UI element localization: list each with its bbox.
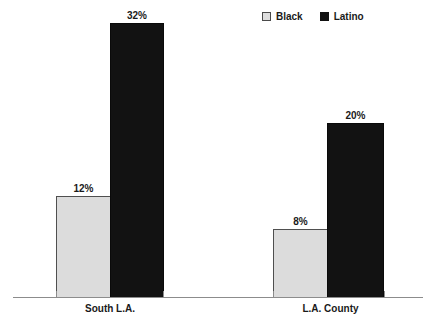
bar-chart: Black Latino 12% 32% 8% 20% South L.A. L… bbox=[0, 0, 434, 323]
bar-value-south-la-latino: 32% bbox=[110, 10, 164, 21]
x-axis-tick bbox=[384, 291, 385, 298]
bar-south-la-latino[interactable] bbox=[110, 23, 164, 298]
x-axis-label-south-la: South L.A. bbox=[60, 303, 160, 315]
bar-south-la-black[interactable] bbox=[56, 196, 111, 298]
bar-value-la-county-black: 8% bbox=[273, 216, 328, 227]
plot-area: 12% 32% 8% 20% bbox=[0, 0, 434, 299]
x-axis-tick bbox=[163, 291, 164, 298]
x-axis-line bbox=[13, 297, 423, 298]
bar-la-county-black[interactable] bbox=[273, 229, 328, 298]
x-axis-tick bbox=[273, 291, 274, 298]
bar-value-la-county-latino: 20% bbox=[327, 110, 384, 121]
x-axis-tick bbox=[56, 291, 57, 298]
bar-value-south-la-black: 12% bbox=[56, 183, 111, 194]
bar-la-county-latino[interactable] bbox=[327, 123, 384, 298]
x-axis-label-la-county: L.A. County bbox=[278, 303, 383, 315]
